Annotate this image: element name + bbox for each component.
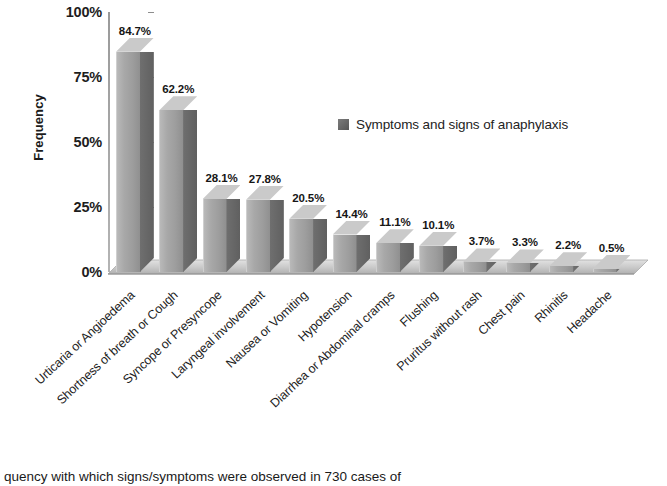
bar: [333, 221, 357, 272]
bar-top-face: [289, 205, 327, 219]
bar-top-face: [593, 255, 631, 269]
bar: [246, 186, 270, 272]
bar-front-face: [116, 52, 141, 272]
bar-front-face: [203, 199, 228, 272]
bar-front-face: [289, 219, 314, 272]
bar-front-face: [506, 263, 531, 272]
figure-caption: quency with which signs/symptoms were ob…: [0, 468, 667, 486]
bar-side-face: [443, 246, 457, 272]
bar-value-label: 3.7%: [457, 235, 507, 247]
legend-swatch-icon: [338, 119, 349, 130]
bar-value-label: 20.5%: [283, 192, 333, 204]
bar: [203, 185, 227, 272]
bar: [419, 232, 443, 272]
bar-front-face: [246, 200, 271, 272]
bar-side-face: [486, 262, 500, 272]
bar: [116, 38, 140, 272]
bar-side-face: [270, 200, 284, 272]
x-category-label: Flushing: [398, 288, 441, 330]
y-tick-label: 50%: [46, 134, 102, 150]
bar-side-face: [183, 110, 197, 272]
bar: [159, 96, 183, 272]
bar-value-label: 27.8%: [240, 173, 290, 185]
x-category-label: Nausea or Vomiting: [223, 288, 310, 371]
bar-value-label: 28.1%: [197, 172, 247, 184]
bar: [506, 249, 530, 272]
bar-value-label: 0.5%: [587, 242, 637, 254]
bar: [463, 248, 487, 272]
bar-front-face: [593, 269, 618, 272]
bar-top-face: [333, 221, 371, 235]
y-tick-label: 25%: [46, 199, 102, 215]
bar-front-face: [333, 235, 358, 272]
bar-top-face: [506, 249, 544, 263]
bar-side-face: [573, 266, 587, 272]
bar-top-face: [203, 185, 241, 199]
bar-top-face: [549, 252, 587, 266]
bar-front-face: [419, 246, 444, 272]
bar-top-face: [116, 38, 154, 52]
bar-front-face: [463, 262, 488, 272]
chart-legend: Symptoms and signs of anaphylaxis: [338, 117, 568, 132]
bar-value-label: 62.2%: [153, 83, 203, 95]
bar: [549, 252, 573, 272]
bar-value-label: 10.1%: [413, 219, 463, 231]
bar: [593, 255, 617, 272]
bar-side-face: [616, 269, 630, 272]
bar: [376, 229, 400, 272]
x-category-label: Headache: [564, 288, 614, 336]
bar-side-face: [140, 52, 154, 272]
bar-side-face: [530, 263, 544, 272]
bar-side-face: [226, 199, 240, 272]
x-axis-category-labels: Urticaria or AngioedemaShortness of brea…: [0, 282, 667, 457]
y-tick-label: 100%: [46, 4, 102, 20]
bar-chart: Frequency 0%25%50%75%100% 84.7%62.2%28.1…: [0, 0, 667, 486]
bar-top-face: [419, 232, 457, 246]
y-tick-label: 0%: [46, 264, 102, 280]
y-axis-tick-labels: 0%25%50%75%100%: [44, 0, 102, 290]
bar-front-face: [376, 243, 401, 272]
bar-top-face: [376, 229, 414, 243]
bar: [289, 205, 313, 272]
legend-entry-label: Symptoms and signs of anaphylaxis: [356, 117, 568, 132]
bars-container: 84.7%62.2%28.1%27.8%20.5%14.4%11.1%10.1%…: [108, 12, 653, 274]
bar-top-face: [159, 96, 197, 110]
bar-value-label: 84.7%: [110, 25, 160, 37]
bar-side-face: [400, 243, 414, 272]
y-tick-label: 75%: [46, 69, 102, 85]
bar-side-face: [356, 235, 370, 272]
bar-side-face: [313, 219, 327, 272]
bar-front-face: [159, 110, 184, 272]
bar-top-face: [246, 186, 284, 200]
x-category-label: Rhinitis: [532, 288, 571, 325]
bar-value-label: 14.4%: [327, 208, 377, 220]
bar-front-face: [549, 266, 574, 272]
x-category-label: Pruritus without rash: [394, 288, 485, 374]
bar-top-face: [463, 248, 501, 262]
